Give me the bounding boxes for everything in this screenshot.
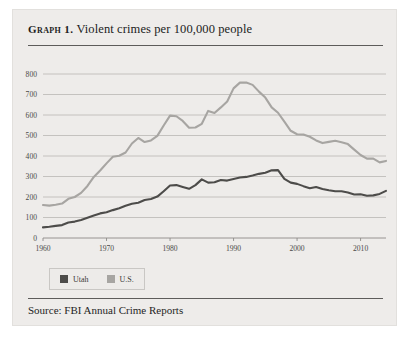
legend-label-utah: Utah xyxy=(73,275,89,284)
chart-plot-area: 0100200300400500600700800196019701980199… xyxy=(13,52,396,267)
y-axis-tick-label: 0 xyxy=(33,234,37,243)
figure-card: Graph 1. Violent crimes per 100,000 peop… xyxy=(13,10,396,325)
title-divider xyxy=(28,45,383,46)
line-chart: 0100200300400500600700800196019701980199… xyxy=(13,52,396,267)
y-axis-tick-label: 700 xyxy=(26,90,38,99)
y-axis-tick-label: 100 xyxy=(26,213,38,222)
figure-title-text: Violent crimes per 100,000 people xyxy=(76,22,252,36)
legend-swatch-utah xyxy=(60,275,68,283)
legend-label-us: U.S. xyxy=(120,275,134,284)
chart-legend: Utah U.S. xyxy=(49,268,145,290)
y-axis-tick-label: 800 xyxy=(26,70,38,79)
figure-label: Graph 1. xyxy=(28,23,73,35)
figure-header: Graph 1. Violent crimes per 100,000 peop… xyxy=(28,22,383,48)
legend-item-utah: Utah xyxy=(60,275,89,284)
x-axis-tick-label: 1990 xyxy=(226,244,241,253)
legend-swatch-us xyxy=(107,275,115,283)
y-axis-tick-label: 200 xyxy=(26,193,38,202)
x-axis-tick-label: 1960 xyxy=(35,244,50,253)
page-title: Graph 1. Violent crimes per 100,000 peop… xyxy=(28,22,383,37)
y-axis-tick-label: 500 xyxy=(26,131,38,140)
x-axis-tick-label: 2010 xyxy=(353,244,368,253)
x-axis-tick-label: 1980 xyxy=(162,244,177,253)
series-line-us xyxy=(43,83,386,206)
y-axis-tick-label: 600 xyxy=(26,111,38,120)
legend-item-us: U.S. xyxy=(107,275,134,284)
y-axis-tick-label: 300 xyxy=(26,172,38,181)
x-axis-tick-label: 2000 xyxy=(289,244,304,253)
source-note: Source: FBI Annual Crime Reports xyxy=(28,304,183,316)
y-axis-tick-label: 400 xyxy=(26,152,38,161)
series-line-utah xyxy=(43,170,386,227)
x-axis-tick-label: 1970 xyxy=(99,244,114,253)
footer-divider xyxy=(28,298,383,299)
